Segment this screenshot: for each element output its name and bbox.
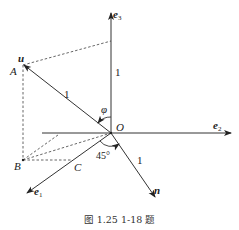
label-n: n — [154, 185, 160, 196]
vector-diagram: e3 e2 e1 u n A B C O 1 1 1 φ 45° 图 1.25 … — [0, 0, 239, 230]
length-u-segment: 1 — [64, 89, 70, 100]
dashed-A-to-e3 — [23, 41, 111, 65]
label-e1: e1 — [34, 186, 42, 199]
label-point-B: B — [14, 161, 21, 172]
dashed-B-to-e2neg — [23, 135, 58, 160]
point-B-dot — [22, 159, 24, 161]
label-u: u — [18, 53, 24, 64]
angle-45-arc — [100, 141, 119, 146]
label-point-A: A — [10, 66, 17, 77]
phi-arc — [98, 117, 111, 123]
label-point-O: O — [116, 122, 124, 133]
label-point-C: C — [74, 162, 81, 173]
angle-phi-label: φ — [101, 104, 107, 115]
n-vector — [111, 133, 155, 197]
e1-axis — [27, 133, 111, 193]
axes — [27, 13, 231, 193]
figure-caption: 图 1.25 1-18 题 — [0, 212, 239, 226]
label-e2: e2 — [213, 120, 221, 133]
vectors — [24, 65, 155, 197]
label-e3: e3 — [113, 9, 121, 22]
length-e3-segment: 1 — [115, 67, 121, 78]
angle-45-label: 45° — [96, 151, 110, 161]
length-n-segment: 1 — [137, 155, 143, 166]
origin-dot — [110, 132, 112, 134]
